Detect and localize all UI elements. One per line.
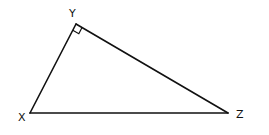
edge-xy — [30, 24, 76, 113]
edge-yz — [76, 24, 228, 113]
triangle-svg: XYZ — [0, 0, 269, 135]
vertex-label-x: X — [18, 111, 26, 124]
vertex-label-z: Z — [236, 108, 244, 121]
triangle-diagram: XYZ X Y Z — [0, 0, 269, 135]
vertex-label-y: Y — [68, 7, 76, 20]
